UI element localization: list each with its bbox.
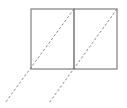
right-dashed-diagonal bbox=[49, 9, 117, 103]
left-dashed-diagonal bbox=[5, 9, 74, 103]
diagram-canvas bbox=[0, 0, 127, 108]
